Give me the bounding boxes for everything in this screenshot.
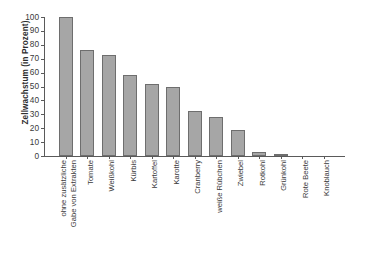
y-tick-50: 50 xyxy=(28,87,44,88)
bar-slot xyxy=(119,17,141,156)
bar-slot xyxy=(55,17,77,156)
x-tick-mark xyxy=(109,156,110,159)
x-axis-label-line: Zwiebel xyxy=(237,160,246,186)
y-tick-20: 20 xyxy=(28,128,44,129)
y-tick-30: 30 xyxy=(28,114,44,115)
bar-slot xyxy=(76,17,98,156)
bar-slot xyxy=(313,17,335,156)
bar-ohne-zus-tzliche-gabe-von-extrakten[interactable] xyxy=(59,17,73,156)
x-label-slot: Kartoffel xyxy=(141,160,163,256)
x-tick-mark xyxy=(130,156,131,159)
x-axis-label-line: Tomate xyxy=(86,160,95,185)
bar-slot xyxy=(184,17,206,156)
x-axis-label-line: Weißkohl xyxy=(108,160,117,192)
y-tick-mark xyxy=(41,17,44,18)
y-tick-mark xyxy=(41,128,44,129)
bar-wei-kohl[interactable] xyxy=(102,55,116,156)
bar-kartoffel[interactable] xyxy=(145,84,159,156)
bar-zwiebel[interactable] xyxy=(231,130,245,156)
x-label-slot: Zwiebel xyxy=(227,160,249,256)
y-tick-10: 10 xyxy=(28,142,44,143)
y-tick-100: 100 xyxy=(28,17,44,18)
y-tick-label: 20 xyxy=(30,123,39,133)
x-label-slot: Weißkohl xyxy=(98,160,120,256)
y-tick-mark xyxy=(41,73,44,74)
x-axis-label-line: ohne zusätzliche xyxy=(60,160,69,217)
plot-area: 0102030405060708090100 xyxy=(44,17,345,156)
bar-slot xyxy=(270,17,292,156)
bar-cranberry[interactable] xyxy=(188,111,202,156)
y-tick-label: 90 xyxy=(30,25,39,35)
bar-slot xyxy=(98,17,120,156)
bar-slot xyxy=(141,17,163,156)
bar-karotte[interactable] xyxy=(166,87,180,157)
x-axis-label-line: Karotte xyxy=(172,160,181,184)
x-label-slot: ohne zusätzlicheGabe von Extrakten xyxy=(55,160,77,256)
x-axis-label-line: Rote Beete xyxy=(301,160,310,198)
x-label-slot: Karotte xyxy=(162,160,184,256)
bar-slot xyxy=(162,17,184,156)
bar-slot xyxy=(248,17,270,156)
x-tick-mark xyxy=(66,156,67,159)
y-tick-label: 80 xyxy=(30,39,39,49)
x-label-slot: Kürbis xyxy=(119,160,141,256)
x-label-slot: Tomate xyxy=(76,160,98,256)
x-label-slot: Cranberry xyxy=(184,160,206,256)
x-tick-mark xyxy=(259,156,260,159)
y-tick-mark xyxy=(41,156,44,157)
x-label-slot: Knoblauch xyxy=(313,160,335,256)
x-label-slot: Rotkohl xyxy=(248,160,270,256)
bar-tomate[interactable] xyxy=(80,50,94,156)
y-tick-label: 30 xyxy=(30,109,39,119)
y-tick-label: 70 xyxy=(30,53,39,63)
bar-chart-figure: Zellwachstum (in Prozent) 01020304050607… xyxy=(0,0,370,256)
y-tick-40: 40 xyxy=(28,100,44,101)
x-axis-labels: ohne zusätzlicheGabe von ExtraktenTomate… xyxy=(44,160,345,256)
x-tick-mark xyxy=(216,156,217,159)
y-tick-0: 0 xyxy=(28,156,44,157)
y-tick-label: 100 xyxy=(25,12,39,22)
x-axis-label-line: Kürbis xyxy=(129,160,138,182)
y-tick-label: 0 xyxy=(34,151,39,161)
x-label-slot: Grünkohl xyxy=(270,160,292,256)
x-label-slot: weiße Rübchen xyxy=(205,160,227,256)
x-axis-label-line: Cranberry xyxy=(194,160,203,194)
bar-slot xyxy=(227,17,249,156)
x-axis-label-line: weiße Rübchen xyxy=(215,160,224,213)
x-tick-mark xyxy=(152,156,153,159)
y-tick-label: 60 xyxy=(30,67,39,77)
x-tick-mark xyxy=(87,156,88,159)
y-axis-line xyxy=(44,17,45,156)
y-tick-label: 10 xyxy=(30,137,39,147)
x-tick-mark xyxy=(324,156,325,159)
y-tick-80: 80 xyxy=(28,45,44,46)
x-tick-mark xyxy=(195,156,196,159)
y-tick-60: 60 xyxy=(28,73,44,74)
bar-slot xyxy=(291,17,313,156)
bar-wei-e-r-bchen[interactable] xyxy=(209,117,223,156)
y-tick-label: 40 xyxy=(30,95,39,105)
y-tick-mark xyxy=(41,45,44,46)
x-tick-mark xyxy=(238,156,239,159)
y-tick-mark xyxy=(41,114,44,115)
y-tick-mark xyxy=(41,31,44,32)
y-tick-70: 70 xyxy=(28,59,44,60)
y-tick-mark xyxy=(41,142,44,143)
x-axis-label-line: Grünkohl xyxy=(280,160,289,191)
x-axis-label-line: Rotkohl xyxy=(258,160,267,186)
x-axis-label-line: Knoblauch xyxy=(323,160,332,196)
y-tick-label: 50 xyxy=(30,81,39,91)
x-tick-mark xyxy=(302,156,303,159)
x-axis-label-line: Kartoffel xyxy=(151,160,160,188)
x-tick-mark xyxy=(173,156,174,159)
bar-k-rbis[interactable] xyxy=(123,75,137,156)
y-tick-mark xyxy=(41,59,44,60)
y-tick-90: 90 xyxy=(28,31,44,32)
x-label-slot: Rote Beete xyxy=(291,160,313,256)
y-tick-mark xyxy=(41,100,44,101)
y-tick-mark xyxy=(41,87,44,88)
bar-slot xyxy=(205,17,227,156)
x-tick-mark xyxy=(281,156,282,159)
